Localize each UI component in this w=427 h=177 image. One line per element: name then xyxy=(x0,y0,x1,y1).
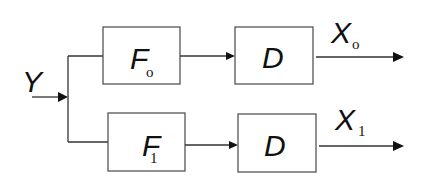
svg-text:D: D xyxy=(264,129,286,162)
d-box-bottom: D xyxy=(238,114,316,172)
input-arrowhead-icon xyxy=(58,92,68,102)
svg-text:1: 1 xyxy=(358,123,366,139)
d-box-top: D xyxy=(235,27,313,84)
output1-arrowhead-icon xyxy=(393,141,404,151)
svg-text:o: o xyxy=(146,64,154,80)
output-label-x1: X 1 xyxy=(334,103,366,139)
output0-arrowhead-icon xyxy=(393,52,404,62)
branch0-mid-arrowhead-icon xyxy=(226,52,235,60)
filter-box-f1: F 1 xyxy=(108,113,185,171)
input-label-y: Y xyxy=(22,65,44,98)
svg-text:X: X xyxy=(330,16,352,49)
svg-text:X: X xyxy=(334,103,356,136)
block-diagram: Y F o D X o F 1 D X 1 xyxy=(0,0,427,177)
svg-text:o: o xyxy=(352,36,360,52)
branch1-mid-arrowhead-icon xyxy=(229,141,238,149)
svg-text:D: D xyxy=(262,41,284,74)
filter-box-f0: F o xyxy=(103,27,180,84)
output-label-x0: X o xyxy=(330,16,360,52)
svg-text:1: 1 xyxy=(150,150,158,166)
